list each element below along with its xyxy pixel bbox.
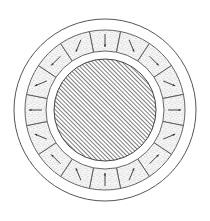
- magnet-cross-section-diagram: [0, 0, 210, 221]
- hatched-core: [54, 59, 156, 161]
- diagram-canvas: [0, 0, 210, 221]
